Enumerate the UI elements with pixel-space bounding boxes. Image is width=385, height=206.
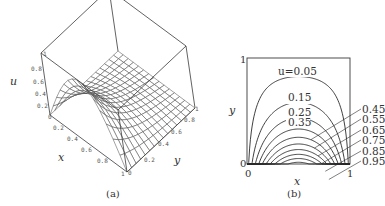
contour-label-0.05: u=0.05	[278, 65, 317, 77]
z-tick-0.8: 0.8	[31, 65, 42, 72]
z-tick-0.4: 0.4	[35, 90, 46, 97]
surface-plot-panel-a: 1 0.8 0.6 0.4 0.2 0 0.2 0.4 0.6 0.8 1 0 …	[10, 0, 199, 199]
figure: 1 0.8 0.6 0.4 0.2 0 0.2 0.4 0.6 0.8 1 0 …	[0, 0, 385, 206]
contour-plot-panel-b: u=0.05 0.15 0.25 0.35 0.45 0.55 0.65 0.7…	[228, 54, 385, 199]
x-tick-0.4: 0.4	[67, 135, 78, 142]
y-tick-0.8: 0.8	[184, 116, 195, 123]
contour-label-0.35: 0.35	[288, 116, 311, 128]
z-tick-1: 1	[43, 50, 47, 57]
caption-a: (a)	[106, 188, 120, 199]
y-tick-0.2: 0.2	[144, 156, 155, 163]
x-tick-0: 0	[245, 168, 251, 179]
z-tick-0: 0	[48, 113, 52, 120]
y-tick-0: 0	[128, 169, 132, 176]
z-tick-0.6: 0.6	[33, 78, 44, 85]
y-tick-1: 1	[240, 54, 246, 65]
x-tick-0.8: 0.8	[97, 157, 108, 164]
x-axis-label: x	[294, 175, 301, 188]
x-tick-0.2: 0.2	[53, 124, 64, 131]
x-tick-1: 1	[347, 168, 353, 179]
caption-b: (b)	[287, 188, 301, 199]
y-tick-0.6: 0.6	[171, 128, 182, 135]
x-axis-label: x	[58, 151, 65, 164]
y-axis-label: y	[228, 104, 236, 117]
contour-label-0.95: 0.95	[362, 155, 385, 167]
x-tick-0.6: 0.6	[81, 146, 92, 153]
contour-label-0.15: 0.15	[288, 91, 311, 103]
y-tick-0.4: 0.4	[158, 140, 169, 147]
z-tick-0.2: 0.2	[37, 102, 48, 109]
z-axis-label: u	[10, 75, 17, 88]
y-tick-1: 1	[195, 105, 199, 112]
y-axis-label: y	[173, 154, 181, 167]
x-tick-1: 1	[121, 170, 125, 177]
